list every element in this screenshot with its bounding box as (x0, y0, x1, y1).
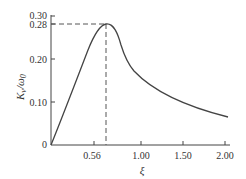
y-tick-label: 0.10 (30, 97, 48, 108)
y-ticks (51, 16, 55, 102)
y-tick-label: 0 (42, 139, 47, 150)
x-axis-title: ξ (140, 164, 145, 177)
data-curve (51, 24, 228, 145)
x-tick-label: 1.00 (132, 150, 150, 161)
y-axis-title: Kv/ω0 (14, 74, 28, 101)
x-tick-label: 2.00 (216, 150, 234, 161)
x-tick-label: 0.56 (83, 150, 101, 161)
y-tick-label: 0.20 (30, 54, 48, 65)
chart: 0.30 0.28 0.20 0.10 0 0.56 1.00 1.50 2.0… (0, 0, 246, 179)
x-tick-label: 1.50 (174, 150, 192, 161)
x-ticks (94, 141, 225, 145)
y-tick-label: 0.28 (30, 19, 48, 30)
